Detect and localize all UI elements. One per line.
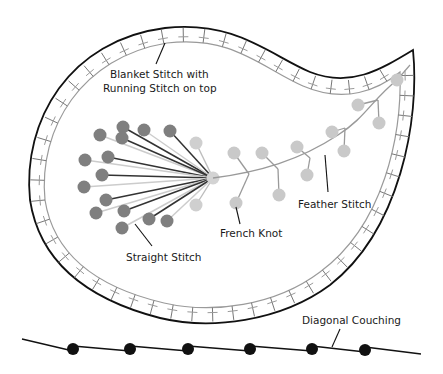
straight-stitch-dot bbox=[161, 215, 174, 228]
straight-stitch-dot bbox=[90, 207, 103, 220]
straight-stitch-dot bbox=[164, 125, 177, 138]
running-stitch-dash bbox=[257, 55, 266, 60]
blanket-tick bbox=[203, 29, 205, 43]
running-stitch-dash bbox=[51, 235, 56, 244]
blanket-tick bbox=[364, 76, 369, 89]
blanket-tick bbox=[37, 137, 50, 141]
blanket-tick bbox=[270, 298, 274, 311]
running-stitch-dash bbox=[110, 290, 119, 294]
french-knot-dot bbox=[190, 137, 203, 150]
blanket-tick bbox=[161, 30, 164, 44]
blanket-tick bbox=[130, 295, 135, 308]
running-stitch-dash bbox=[102, 58, 110, 63]
blanket-tick bbox=[251, 303, 254, 317]
running-stitch-dash bbox=[374, 207, 379, 216]
french-knot-leader bbox=[236, 207, 240, 224]
french-knot-label: French Knot bbox=[220, 227, 282, 239]
couching-dot bbox=[244, 343, 256, 355]
diagonal-couching bbox=[22, 339, 421, 356]
blanket-tick bbox=[372, 209, 384, 215]
straight-stitch-dot bbox=[78, 181, 91, 194]
feather-knot bbox=[291, 141, 304, 154]
outer-outline bbox=[29, 27, 414, 323]
running-stitch-dash bbox=[274, 65, 283, 70]
running-stitch-dash bbox=[93, 280, 102, 285]
paisley-shape bbox=[29, 27, 414, 323]
feather-knot bbox=[256, 147, 269, 160]
blanket-tick bbox=[330, 80, 332, 94]
blanket-tick bbox=[36, 219, 49, 224]
running-stitch-dash bbox=[351, 242, 357, 250]
feather-knot bbox=[301, 169, 314, 182]
straight-stitch-label: Straight Stitch bbox=[126, 251, 201, 263]
blanket-tick bbox=[396, 134, 410, 136]
running-stitch-dash bbox=[62, 253, 69, 261]
blanket-tick bbox=[120, 43, 126, 56]
blanket-tick bbox=[293, 69, 299, 81]
blanket-tick bbox=[259, 50, 266, 62]
blanket-tick bbox=[31, 200, 45, 201]
straight-stitch-dot bbox=[118, 205, 131, 218]
blanket-tick bbox=[222, 33, 226, 46]
running-stitch-dash bbox=[238, 47, 247, 51]
blanket-tick bbox=[141, 35, 145, 48]
couching-dot bbox=[182, 343, 194, 355]
straight-stitch-dot bbox=[143, 213, 156, 226]
straight-stitch-dot bbox=[116, 132, 129, 145]
straight-stitch-dot bbox=[138, 124, 151, 137]
blanket-tick bbox=[380, 191, 393, 196]
straight-stitch-fan bbox=[78, 121, 220, 235]
running-stitch-dash bbox=[228, 310, 238, 311]
feather-knot bbox=[228, 147, 241, 160]
blanket-tick bbox=[386, 173, 399, 177]
blanket-tick bbox=[45, 117, 58, 123]
blanket-tick bbox=[232, 306, 234, 320]
running-stitch-dash bbox=[86, 69, 94, 75]
couching-dot bbox=[67, 343, 79, 355]
blanket-leader bbox=[156, 43, 165, 64]
blanket-tick bbox=[192, 307, 193, 321]
stitch-diagram: Blanket Stitch with Running Stitch on to… bbox=[0, 0, 443, 374]
feather-stitch-label: Feather Stitch bbox=[298, 198, 372, 210]
blanket-tick bbox=[348, 80, 349, 94]
straight-stitch-dot bbox=[96, 169, 109, 182]
running-stitch-dash bbox=[76, 267, 84, 273]
running-stitch-dash bbox=[326, 88, 336, 89]
blanket-tick bbox=[400, 95, 414, 96]
blanket-tick bbox=[150, 300, 154, 314]
straight-stitch-dot bbox=[100, 194, 113, 207]
straight-stitch-dot bbox=[116, 222, 129, 235]
feather-knot bbox=[326, 126, 339, 139]
running-stitch-dash bbox=[322, 271, 330, 277]
french-knot-dot bbox=[190, 199, 203, 212]
blanket-tick bbox=[398, 115, 412, 117]
couching-dot bbox=[124, 343, 136, 355]
blanket-tick bbox=[311, 76, 315, 89]
running-stitch-dash bbox=[120, 49, 129, 53]
blanket-label-line1: Blanket Stitch with bbox=[110, 68, 209, 80]
straight-stitch-dot bbox=[94, 129, 107, 142]
blanket-tick bbox=[392, 154, 406, 157]
running-stitch-dash bbox=[199, 37, 209, 38]
blanket-stitch-ticks bbox=[30, 28, 414, 322]
feather-knot bbox=[338, 145, 351, 158]
running-stitch-dash bbox=[305, 283, 314, 288]
straight-leader bbox=[135, 224, 152, 246]
running-stitch-dash bbox=[291, 75, 300, 80]
blanket-tick bbox=[32, 158, 46, 160]
running-stitch-dash bbox=[363, 225, 368, 233]
straight-stitch-dot bbox=[79, 154, 92, 167]
straight-stitch-dot bbox=[102, 151, 115, 164]
diagonal-couching-label: Diagonal Couching bbox=[302, 314, 401, 326]
blanket-tick bbox=[289, 290, 295, 303]
running-stitch-dash bbox=[40, 195, 41, 205]
running-stitch-dash bbox=[60, 99, 65, 107]
running-stitch-dash bbox=[344, 88, 354, 89]
feather-knot bbox=[273, 189, 286, 202]
straight-stitch-dot bbox=[117, 121, 130, 134]
running-stitch-dash bbox=[403, 111, 404, 121]
running-stitch-dash bbox=[286, 293, 295, 297]
blanket-tick bbox=[111, 287, 117, 300]
blanket-label-line2: Running Stitch on top bbox=[103, 82, 217, 94]
running-stitch-dash bbox=[380, 74, 389, 79]
